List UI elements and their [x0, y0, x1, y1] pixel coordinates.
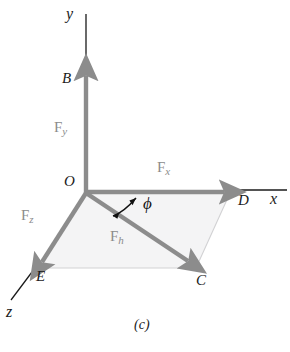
phi-angle-label: ϕ [143, 195, 152, 212]
figure-caption: (c) [134, 318, 150, 332]
vector-diagram-canvas [0, 0, 290, 352]
y-axis-label: y [66, 6, 73, 22]
force-x-label: Fx [157, 160, 170, 175]
physics-vector-figure: y x z O B C D E Fy Fx Fz Fh ϕ (c) [0, 0, 290, 352]
force-z-subscript: z [29, 213, 33, 225]
force-x-subscript: x [165, 165, 170, 177]
horizontal-plane [37, 193, 230, 268]
point-b-label: B [62, 71, 71, 86]
z-axis-label: z [6, 304, 12, 320]
point-e-label: E [36, 269, 45, 284]
x-axis-label: x [270, 191, 277, 207]
origin-label: O [64, 174, 75, 189]
force-h-subscript: h [118, 234, 124, 246]
point-c-label: C [196, 273, 206, 288]
force-y-label: Fy [54, 120, 67, 135]
force-z-label: Fz [21, 208, 34, 223]
force-y-subscript: y [62, 125, 67, 137]
force-h-label: Fh [110, 229, 124, 244]
point-d-label: D [238, 193, 249, 208]
z-axis-line [11, 272, 32, 300]
